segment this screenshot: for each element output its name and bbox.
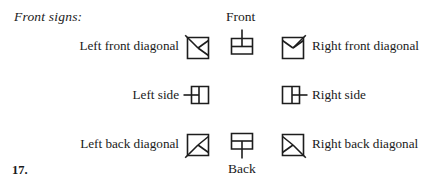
label-left-back-diagonal: Left back diagonal — [80, 137, 179, 150]
symbol-right-front-diagonal — [278, 31, 312, 65]
symbol-left-front-diagonal — [183, 31, 217, 65]
item-number: 17. — [12, 163, 28, 178]
symbol-left-back-diagonal — [183, 129, 217, 163]
front-orientation-label: Front — [226, 9, 255, 25]
figure-caption: Front signs: — [14, 9, 82, 25]
symbol-front-upward-stem — [227, 29, 261, 63]
figure-page: Front signs: Front Left front diagonal R… — [0, 0, 439, 191]
label-right-front-diagonal: Right front diagonal — [312, 39, 419, 52]
label-right-side: Right side — [312, 88, 366, 101]
label-right-back-diagonal: Right back diagonal — [312, 137, 418, 150]
symbol-right-side-stem — [278, 80, 312, 114]
label-left-side: Left side — [132, 88, 179, 101]
symbol-right-back-diagonal — [278, 129, 312, 163]
label-left-front-diagonal: Left front diagonal — [79, 39, 179, 52]
symbol-back-downward-stem — [227, 128, 261, 162]
symbol-left-side-stem — [183, 80, 217, 114]
back-orientation-label: Back — [228, 161, 256, 177]
